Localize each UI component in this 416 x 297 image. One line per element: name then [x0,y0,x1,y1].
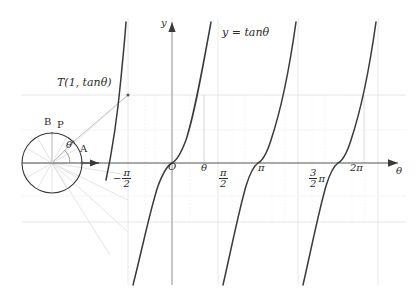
circle-angle-label: θ [66,140,72,150]
tangent-point-label: T(1, tanθ) [57,77,112,88]
tick-suffix: π [318,174,325,184]
tick-sign: − [113,174,121,184]
x-tick-theta: θ [201,163,207,173]
x-tick-origin: O [168,162,176,172]
angle-arc [65,150,70,163]
horizontal-gridlines [22,95,406,222]
unit-direction-arrow [82,159,99,166]
tick-fraction: 32 [309,168,317,189]
tangent-curve [106,22,376,285]
curve-equation-label: y = tanθ [222,27,269,38]
point-p-label: P [57,120,64,130]
point-b-label: B [44,117,51,127]
tangent-branch-neg [106,22,126,180]
figure-canvas [0,0,416,297]
tick-fraction: π2 [122,168,131,189]
x-tick-neg-half-pi: −π2 [113,168,131,189]
x-tick-two-pi: 2π [350,163,363,173]
x-tick-pi: π [258,163,265,173]
ray-to-t [73,95,128,142]
point-a-dot [81,162,84,165]
helper-gridlines [145,95,365,225]
point-t-dot [127,94,130,97]
x-tick-three-halves-pi: 32π [309,168,325,189]
tangent-branch-2pi [303,22,376,285]
x-tick-half-pi: π2 [219,168,228,189]
vertical-gridlines [128,18,378,285]
x-axis-label: θ [396,166,402,176]
tangent-function-figure: y θ y = tanθ T(1, tanθ) B P A θ −π2Oθπ2π… [0,0,416,297]
point-b-dot [51,132,53,134]
point-a-label: A [80,144,87,154]
y-axis-label: y [161,18,167,28]
tick-fraction: π2 [219,168,228,189]
y-axis [168,22,175,285]
tangent-branch-pi [223,22,296,285]
